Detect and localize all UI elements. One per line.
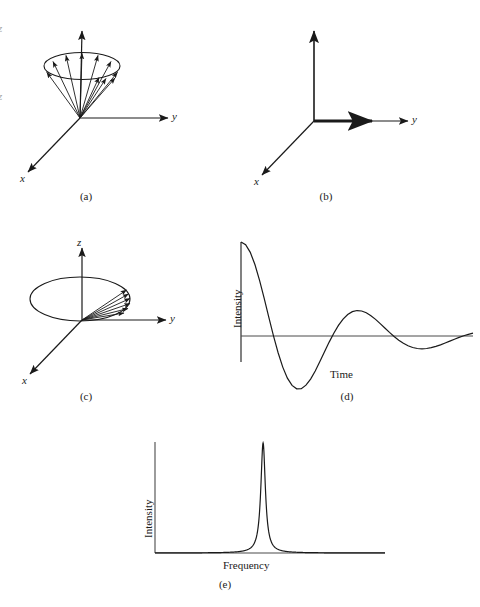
spin-vector-cone-a (47, 53, 118, 118)
panel-a: y x (0, 0, 230, 210)
axis-x-b (262, 121, 314, 175)
axis-label-intensity-d: Intensity (231, 290, 243, 329)
axis-label-y-c: y (170, 312, 175, 324)
panel-c-graphic (0, 232, 230, 392)
fid-curve-d (241, 242, 473, 389)
nmr-figure: y x (a) y x (b) (0, 0, 480, 607)
axis-label-frequency-e: Frequency (223, 559, 269, 571)
dephasing-fan-c (82, 290, 130, 320)
axis-x-c (30, 320, 82, 374)
axis-label-intensity-e: Intensity (142, 500, 154, 539)
panel-caption-e: (e) (205, 578, 245, 590)
resonance-peak-e (155, 443, 385, 553)
edge-mark-top: z (0, 22, 2, 34)
axis-label-y-b: y (412, 113, 417, 125)
panel-caption-c: (c) (66, 390, 106, 402)
panel-caption-b: (b) (306, 190, 346, 202)
panel-caption-a: (a) (66, 190, 106, 202)
panel-e-graphic (120, 430, 410, 580)
axis-label-time-d: Time (330, 368, 353, 380)
axis-label-x-a: x (20, 172, 25, 184)
edge-mark-bottom: z (0, 90, 2, 102)
panel-caption-d: (d) (327, 390, 367, 402)
panel-b-graphic (240, 0, 480, 210)
axis-label-y-a: y (172, 110, 177, 122)
axis-label-x-b: x (254, 175, 259, 187)
panel-d: Intensity Time (225, 232, 480, 392)
panel-c: z y x (0, 232, 230, 392)
panel-b: y x (240, 0, 480, 210)
axis-x-a (28, 118, 80, 172)
axis-label-z-c: z (77, 236, 81, 248)
panel-a-graphic (0, 0, 230, 210)
axis-label-x-c: x (22, 374, 27, 386)
panel-e: Intensity Frequency (120, 430, 410, 580)
